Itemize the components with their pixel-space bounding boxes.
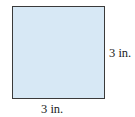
square-shape — [12, 6, 105, 99]
right-side-length-label: 3 in. — [109, 47, 131, 60]
bottom-side-length-label: 3 in. — [41, 103, 63, 116]
